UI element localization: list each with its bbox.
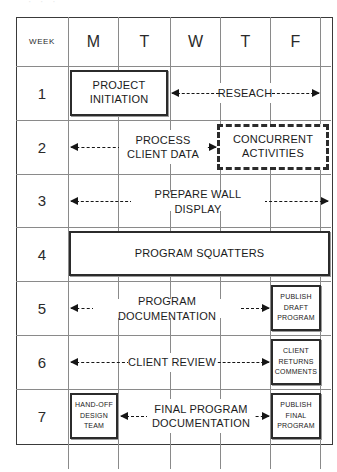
task-box-line: PROGRAM [277,313,315,324]
column-header-monday: M [69,17,118,66]
scan-artifact: · · · [28,0,148,8]
task-box-concurrent-activities: CONCURRENT ACTIVITIES [217,124,329,170]
task-box-program-squatters: PROGRAM SQUATTERS [69,231,330,276]
task-box-line: RETURNS [278,357,313,368]
week-number-6: 6 [16,335,68,389]
task-box-line: CLIENT [283,346,309,357]
column-header-tuesday: T [119,17,170,66]
task-label-process-client-data: PROCESS CLIENT DATA [119,130,207,164]
task-box-line: TEAM [84,421,104,432]
project-schedule-chart: · · · WEEK M T W T F 1 2 3 4 5 6 7 PROJE… [0,0,337,472]
task-box-line: COMMENTS [275,367,317,378]
week-number-5: 5 [16,281,68,335]
task-box-hand-off-design-team: HAND-OFF DESIGN TEAM [70,393,118,439]
task-label-reseach: RESEACH [219,83,271,103]
task-box-line: PROGRAM [277,421,315,432]
task-label-prepare-wall-display: PREPARE WALL DISPLAY [131,192,265,211]
task-box-line: DESIGN [80,411,108,422]
task-label-program-documentation: PROGRAM DOCUMENTATION [93,299,241,318]
task-label-final-program-documentation: FINAL PROGRAM DOCUMENTATION [147,399,255,433]
week-number-1: 1 [16,66,68,120]
column-header-wednesday: W [171,17,220,66]
task-box-line: HAND-OFF [75,400,113,411]
week-number-4: 4 [16,227,68,281]
task-box-publish-final-program: PUBLISH FINAL PROGRAM [271,393,321,439]
column-header-thursday: T [221,17,270,66]
task-box-line: FINAL [286,411,307,422]
task-box-line: PUBLISH [280,292,311,303]
task-box-publish-draft-program: PUBLISH DRAFT PROGRAM [271,285,321,331]
task-label-client-review: CLIENT REVIEW [128,353,216,372]
task-box-client-returns-comments: CLIENT RETURNS COMMENTS [271,339,321,385]
week-number-2: 2 [16,120,68,174]
week-number-7: 7 [16,389,68,443]
task-box-line: DRAFT [284,303,308,314]
task-box-line: PUBLISH [280,400,311,411]
column-header-week: WEEK [16,17,68,66]
column-header-friday: F [271,17,320,66]
week-number-3: 3 [16,174,68,227]
task-box-project-initiation: PROJECT INITIATION [70,70,168,116]
